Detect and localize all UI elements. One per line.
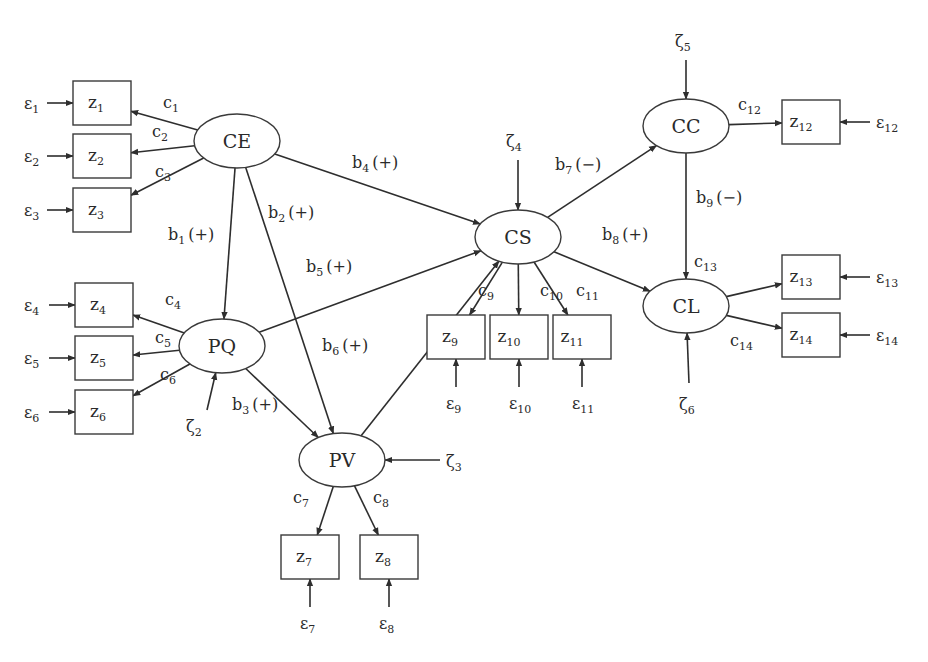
latent-node-label: PV bbox=[329, 449, 356, 471]
loading-label-c2-base: c bbox=[152, 122, 161, 141]
path-label-b8-subscript: 8 bbox=[612, 234, 619, 247]
loading-ce-to-z2 bbox=[131, 146, 195, 153]
disturbance-label-zeta2-subscript: 2 bbox=[195, 426, 202, 439]
loading-label-c2: c2 bbox=[152, 122, 168, 144]
indicator-label-z4-subscript: 4 bbox=[99, 304, 106, 317]
indicator-label-z12-base: z bbox=[790, 111, 799, 131]
loading-label-c14: c14 bbox=[730, 331, 753, 353]
disturbance-label-zeta6-base: ζ bbox=[679, 395, 688, 414]
disturbance-label-zeta4: ζ4 bbox=[506, 132, 522, 154]
path-label-b3-base: b bbox=[232, 395, 242, 414]
loading-label-c9-base: c bbox=[478, 281, 487, 300]
error-label-epsilon1-base: ε bbox=[24, 94, 32, 113]
error-label-epsilon4-subscript: 4 bbox=[32, 305, 39, 318]
shapes-layer bbox=[73, 81, 840, 579]
loading-label-c3-base: c bbox=[155, 162, 164, 181]
loading-label-c6-base: c bbox=[160, 365, 169, 384]
disturbance-label-zeta6-subscript: 6 bbox=[688, 404, 695, 417]
indicator-label-z6-subscript: 6 bbox=[99, 411, 106, 424]
indicator-label-z2-subscript: 2 bbox=[97, 155, 104, 168]
error-label-epsilon9-base: ε bbox=[446, 394, 454, 413]
loading-label-c7: c7 bbox=[293, 488, 309, 510]
loading-label-c13: c13 bbox=[694, 252, 717, 274]
path-label-b2-sign: (+) bbox=[288, 203, 314, 222]
loading-label-c10-subscript: 10 bbox=[549, 290, 563, 303]
path-label-b1-base: b bbox=[168, 225, 178, 244]
loading-label-c9: c9 bbox=[478, 281, 494, 303]
path-label-b3-subscript: 3 bbox=[242, 404, 249, 417]
disturbance-label-zeta4-base: ζ bbox=[506, 132, 515, 151]
indicator-label-z11-subscript: 11 bbox=[569, 336, 583, 349]
error-label-epsilon14-subscript: 14 bbox=[884, 335, 898, 348]
loading-label-c5-base: c bbox=[155, 328, 164, 347]
path-label-b6: b6(+) bbox=[322, 336, 368, 358]
path-label-b7-sign: (−) bbox=[575, 155, 601, 174]
error-label-epsilon6-base: ε bbox=[24, 403, 32, 422]
path-label-b4-subscript: 4 bbox=[362, 162, 369, 175]
path-ce-to-pq bbox=[224, 168, 235, 319]
path-label-b3: b3(+) bbox=[232, 395, 278, 417]
indicator-label-z13-base: z bbox=[790, 266, 799, 286]
latent-node-label: CS bbox=[504, 226, 532, 248]
indicator-label-z13-subscript: 13 bbox=[798, 276, 812, 289]
loading-label-c6-subscript: 6 bbox=[169, 374, 176, 387]
error-label-epsilon8-base: ε bbox=[379, 614, 387, 633]
path-label-b1-subscript: 1 bbox=[178, 234, 185, 247]
disturbance-label-zeta6: ζ6 bbox=[679, 395, 695, 417]
path-label-b5-subscript: 5 bbox=[316, 266, 323, 279]
loading-label-c8-base: c bbox=[373, 488, 382, 507]
loading-label-c12-base: c bbox=[738, 95, 747, 114]
error-label-epsilon7-subscript: 7 bbox=[308, 623, 315, 636]
loading-label-c3-subscript: 3 bbox=[164, 171, 171, 184]
path-label-b2-base: b bbox=[268, 203, 278, 222]
loading-label-c7-base: c bbox=[293, 488, 302, 507]
path-label-b2-subscript: 2 bbox=[278, 212, 285, 225]
loading-pv-to-z7 bbox=[317, 486, 333, 535]
error-label-epsilon12-subscript: 12 bbox=[884, 122, 898, 135]
disturbance-label-zeta5-subscript: 5 bbox=[684, 41, 691, 54]
loading-label-c13-base: c bbox=[694, 252, 703, 271]
path-label-b7-subscript: 7 bbox=[565, 164, 572, 177]
error-label-epsilon1: ε1 bbox=[24, 94, 39, 116]
loading-label-c4: c4 bbox=[165, 290, 181, 312]
path-label-b7: b7(−) bbox=[555, 155, 601, 177]
indicator-label-z10-base: z bbox=[498, 326, 507, 346]
loading-label-c11-base: c bbox=[576, 281, 585, 300]
error-label-epsilon13-base: ε bbox=[876, 268, 884, 287]
loading-label-c11: c11 bbox=[576, 281, 599, 303]
latent-node-label: CE bbox=[223, 130, 251, 152]
disturbance-arrow-cl bbox=[687, 333, 689, 383]
error-label-epsilon5-subscript: 5 bbox=[32, 358, 39, 371]
indicator-label-z4-base: z bbox=[90, 294, 99, 314]
indicator-label-z10-subscript: 10 bbox=[506, 336, 520, 349]
path-label-b8-sign: (+) bbox=[622, 225, 648, 244]
loading-label-c4-subscript: 4 bbox=[174, 299, 181, 312]
path-label-b3-sign: (+) bbox=[252, 395, 278, 414]
loading-cs-to-z10 bbox=[518, 264, 519, 315]
loading-ce-to-z1 bbox=[131, 111, 198, 130]
loading-label-c14-subscript: 14 bbox=[739, 340, 753, 353]
loading-label-c2-subscript: 2 bbox=[161, 131, 168, 144]
error-label-epsilon1-subscript: 1 bbox=[32, 103, 39, 116]
indicator-label-z5-base: z bbox=[90, 347, 99, 367]
path-label-b2: b2(+) bbox=[268, 203, 314, 225]
indicator-label-z12-subscript: 12 bbox=[798, 121, 812, 134]
loading-cl-to-z13 bbox=[726, 284, 782, 297]
error-label-epsilon4: ε4 bbox=[24, 296, 39, 318]
path-label-b5-base: b bbox=[306, 257, 316, 276]
error-label-epsilon6-subscript: 6 bbox=[32, 412, 39, 425]
error-label-epsilon11-subscript: 11 bbox=[580, 403, 594, 416]
loading-label-c8-subscript: 8 bbox=[382, 497, 389, 510]
error-label-epsilon2-subscript: 2 bbox=[32, 156, 39, 169]
error-label-epsilon3-subscript: 3 bbox=[32, 210, 39, 223]
indicator-label-z5-subscript: 5 bbox=[99, 357, 106, 370]
error-label-epsilon2-base: ε bbox=[24, 147, 32, 166]
loading-label-c13-subscript: 13 bbox=[703, 261, 717, 274]
disturbance-label-zeta2: ζ2 bbox=[186, 417, 202, 439]
indicator-label-z3-base: z bbox=[88, 199, 97, 219]
latent-node-label: CC bbox=[671, 115, 700, 137]
error-label-epsilon3: ε3 bbox=[24, 201, 39, 223]
loading-label-c3: c3 bbox=[155, 162, 171, 184]
error-label-epsilon10: ε10 bbox=[509, 394, 531, 416]
loading-label-c12-subscript: 12 bbox=[747, 104, 761, 117]
